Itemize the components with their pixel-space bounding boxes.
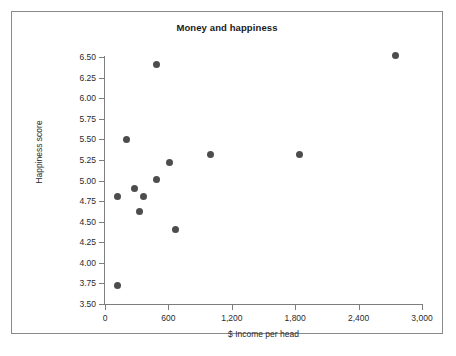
x-axis-title: $ Income per head <box>105 329 422 339</box>
x-axis-line <box>104 304 423 305</box>
scatter-point <box>140 193 147 200</box>
y-axis-tick <box>99 263 104 264</box>
y-axis-tick-label: 5.50 <box>64 134 96 144</box>
scatter-point <box>153 176 160 183</box>
y-axis-tick <box>99 201 104 202</box>
x-axis-tick <box>295 305 296 310</box>
y-axis-tick <box>99 119 104 120</box>
y-axis-tick-label: 5.25 <box>64 155 96 165</box>
x-axis-tick-label: 2,400 <box>334 313 384 323</box>
x-axis-tick <box>168 305 169 310</box>
x-axis-tick <box>105 305 106 310</box>
y-axis-tick-label: 5.75 <box>64 114 96 124</box>
y-axis-title: Happiness score <box>34 97 44 207</box>
y-axis-tick <box>99 78 104 79</box>
scatter-point <box>114 193 121 200</box>
y-axis-tick-label: 5.00 <box>64 176 96 186</box>
x-axis-tick-label: 1,800 <box>270 313 320 323</box>
x-axis-tick <box>232 305 233 310</box>
x-axis-tick <box>422 305 423 310</box>
scatter-point <box>172 226 179 233</box>
scatter-point <box>114 282 121 289</box>
chart-frame: Money and happiness 3.503.754.004.254.50… <box>11 11 443 334</box>
scatter-plot-area <box>105 57 422 304</box>
scatter-point <box>296 151 303 158</box>
chart-title: Money and happiness <box>12 22 442 33</box>
y-axis-tick <box>99 139 104 140</box>
y-axis-tick-label: 3.50 <box>64 299 96 309</box>
x-axis-tick-label: 0 <box>80 313 130 323</box>
y-axis-tick-label: 4.75 <box>64 196 96 206</box>
x-axis-tick-label: 3,000 <box>397 313 447 323</box>
scatter-point <box>207 151 214 158</box>
y-axis-tick <box>99 160 104 161</box>
scatter-point <box>131 185 138 192</box>
scatter-point <box>166 159 173 166</box>
y-axis-tick <box>99 242 104 243</box>
x-axis-tick-label: 600 <box>143 313 193 323</box>
y-axis-tick <box>99 98 104 99</box>
y-axis-tick-label: 6.25 <box>64 73 96 83</box>
scatter-point <box>153 61 160 68</box>
y-axis-tick-label: 4.25 <box>64 237 96 247</box>
y-axis-tick <box>99 222 104 223</box>
x-axis-tick-label: 1,200 <box>207 313 257 323</box>
y-axis-tick-label: 4.50 <box>64 217 96 227</box>
y-axis-tick <box>99 181 104 182</box>
y-axis-tick-label: 3.75 <box>64 278 96 288</box>
y-axis-tick <box>99 304 104 305</box>
y-axis-tick-label: 4.00 <box>64 258 96 268</box>
x-axis-tick <box>359 305 360 310</box>
y-axis-tick-label: 6.00 <box>64 93 96 103</box>
y-axis-tick <box>99 283 104 284</box>
y-axis-tick <box>99 57 104 58</box>
scatter-point <box>123 136 130 143</box>
scatter-point <box>392 52 399 59</box>
scatter-point <box>136 208 143 215</box>
y-axis-tick-label: 6.50 <box>64 52 96 62</box>
